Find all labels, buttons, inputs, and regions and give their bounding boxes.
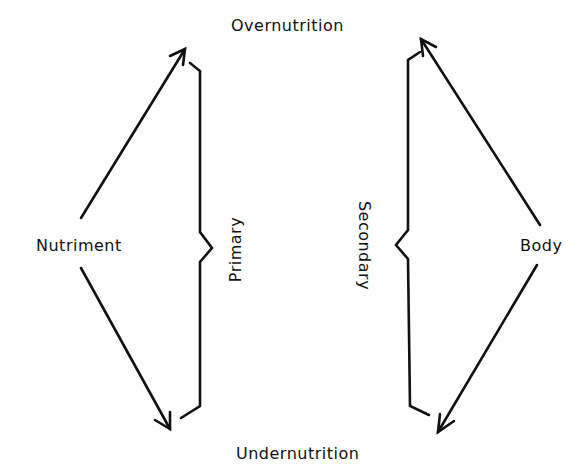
arrow-body-to-undernutrition: [438, 265, 537, 432]
brace-label-primary: Primary: [226, 210, 245, 290]
secondary-brace: [396, 52, 429, 415]
node-nutriment: Nutriment: [36, 236, 122, 255]
arrow-nutriment-to-undernutrition: [81, 268, 170, 429]
node-overnutrition: Overnutrition: [231, 16, 344, 35]
node-undernutrition: Undernutrition: [236, 444, 359, 463]
primary-brace: [181, 63, 212, 418]
arrow-body-to-overnutrition: [421, 39, 540, 225]
arrow-nutriment-to-overnutrition: [81, 49, 185, 218]
node-body: Body: [520, 236, 562, 255]
brace-label-secondary: Secondary: [355, 196, 374, 296]
